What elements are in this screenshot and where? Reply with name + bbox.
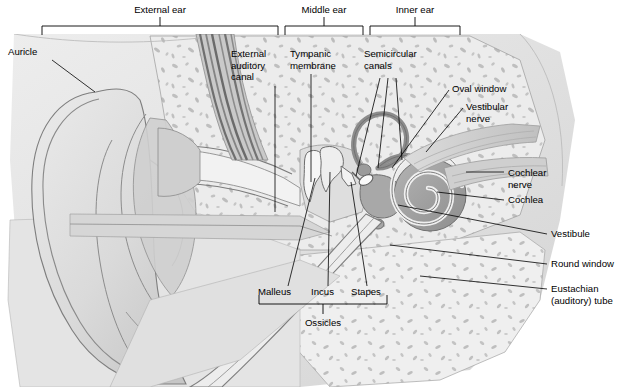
bracket-bar: [370, 26, 460, 35]
leader-line-stapes: [351, 182, 367, 286]
callout-label-stapes: Stapes: [351, 286, 381, 297]
leader-line-vestibular-nerve: [426, 108, 463, 152]
ossicles-bracket: Ossicles: [259, 295, 387, 328]
callout-cochlea: Cochlea: [437, 192, 544, 205]
callout-label-semicircular-canals: Semicircularcanals: [364, 48, 418, 71]
region-label-external-ear: External ear: [134, 4, 187, 15]
leader-line-cochlea: [437, 192, 504, 200]
region-label-inner-ear: Inner ear: [396, 4, 435, 15]
callout-oval-window: Oval window: [392, 83, 506, 168]
callout-stapes: Stapes: [351, 182, 381, 297]
leader-line-semicircular-canals: [356, 78, 402, 176]
callout-labels: AuricleExternalauditorycanalTympanicmemb…: [8, 46, 614, 306]
callout-label-external-auditory-canal: Externalauditorycanal: [231, 48, 266, 82]
callout-label-eustachian-auditory-tube: Eustachian(auditory) tube: [551, 283, 613, 306]
callout-label-oval-window: Oval window: [452, 83, 506, 94]
callout-label-malleus: Malleus: [258, 286, 291, 297]
ear-anatomy-diagram: External earMiddle earInner ear AuricleE…: [0, 0, 623, 387]
region-bracket-external-ear: External ear: [42, 4, 278, 35]
callout-label-cochlear-nerve: Cochlearnerve: [508, 167, 547, 190]
bracket-bar: [285, 26, 363, 35]
callout-tympanic-membrane: Tympanicmembrane: [290, 48, 336, 182]
leader-line-incus: [328, 172, 330, 286]
callout-semicircular-canals: Semicircularcanals: [356, 48, 418, 176]
callout-label-vestibular-nerve: Vestibularnerve: [466, 101, 509, 124]
callout-auricle: Auricle: [8, 46, 95, 92]
region-bracket-middle-ear: Middle ear: [285, 4, 363, 35]
callout-vestibule: Vestibule: [398, 205, 590, 239]
callout-cochlear-nerve: Cochlearnerve: [466, 167, 547, 190]
callout-label-round-window: Round window: [551, 258, 614, 269]
leader-line-round-window: [390, 245, 547, 264]
callout-label-cochlea: Cochlea: [508, 194, 544, 205]
callout-label-tympanic-membrane: Tympanicmembrane: [290, 48, 336, 71]
region-brackets: External earMiddle earInner ear: [42, 4, 460, 35]
region-bracket-inner-ear: Inner ear: [370, 4, 460, 35]
callout-label-auricle: Auricle: [8, 46, 37, 57]
leader-line-auricle: [52, 60, 95, 92]
leader-line-vestibule: [398, 205, 547, 234]
leader-line-eustachian-auditory-tube: [420, 276, 547, 289]
callout-malleus: Malleus: [258, 178, 315, 297]
leader-line-malleus: [288, 178, 315, 286]
region-label-middle-ear: Middle ear: [302, 4, 348, 15]
callout-external-auditory-canal: Externalauditorycanal: [231, 48, 275, 212]
annotation-layer: External earMiddle earInner ear AuricleE…: [0, 0, 623, 387]
callout-label-vestibule: Vestibule: [551, 228, 590, 239]
callout-eustachian-auditory-tube: Eustachian(auditory) tube: [420, 276, 613, 306]
callout-label-incus: Incus: [311, 286, 334, 297]
bracket-bar: [42, 26, 278, 35]
callout-incus: Incus: [311, 172, 334, 297]
leader-line-oval-window: [392, 90, 449, 168]
callout-vestibular-nerve: Vestibularnerve: [426, 101, 509, 152]
callout-round-window: Round window: [390, 245, 614, 269]
ossicles-label: Ossicles: [305, 317, 341, 328]
